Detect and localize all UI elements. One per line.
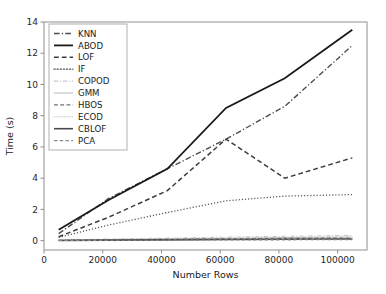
legend-label-abod[interactable]: ABOD bbox=[78, 41, 103, 51]
legend-label-gmm[interactable]: GMM bbox=[78, 88, 100, 98]
legend-label-ecod[interactable]: ECOD bbox=[78, 112, 103, 122]
y-axis-title: Time (s) bbox=[4, 117, 15, 157]
chart-legend[interactable]: KNNABODLOFIFCOPODGMMHBOSECODCBLOFPCA bbox=[49, 24, 127, 150]
x-tick-label: 80000 bbox=[265, 255, 294, 265]
legend-label-lof[interactable]: LOF bbox=[78, 52, 94, 62]
y-tick-label: 10 bbox=[27, 80, 39, 90]
y-tick-label: 8 bbox=[32, 111, 38, 121]
legend-label-pca[interactable]: PCA bbox=[78, 136, 95, 146]
legend-label-hbos[interactable]: HBOS bbox=[78, 100, 102, 110]
x-tick-label: 20000 bbox=[88, 255, 117, 265]
x-tick-label: 40000 bbox=[147, 255, 176, 265]
y-tick-label: 0 bbox=[32, 236, 38, 246]
x-tick-label: 60000 bbox=[206, 255, 235, 265]
line-chart: 02000040000600008000010000002468101214Nu… bbox=[0, 0, 386, 294]
series-line-lof bbox=[59, 139, 353, 237]
y-tick-label: 6 bbox=[32, 142, 38, 152]
y-tick-label: 14 bbox=[27, 17, 39, 27]
legend-label-copod[interactable]: COPOD bbox=[78, 76, 110, 86]
legend-label-cblof[interactable]: CBLOF bbox=[78, 124, 106, 134]
chart-figure: 02000040000600008000010000002468101214Nu… bbox=[0, 0, 386, 294]
series-line-if bbox=[59, 195, 353, 238]
y-tick-label: 2 bbox=[32, 205, 38, 215]
legend-label-knn[interactable]: KNN bbox=[78, 29, 97, 39]
y-tick-label: 4 bbox=[32, 173, 38, 183]
y-tick-label: 12 bbox=[27, 48, 38, 58]
x-tick-label: 100000 bbox=[320, 255, 355, 265]
x-axis-title: Number Rows bbox=[173, 269, 239, 280]
x-tick-label: 0 bbox=[41, 255, 47, 265]
legend-label-if[interactable]: IF bbox=[78, 64, 86, 74]
